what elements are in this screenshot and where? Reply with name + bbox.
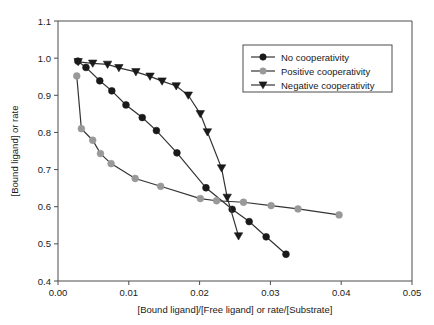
data-point-marker (108, 160, 115, 167)
data-point-marker (139, 114, 146, 121)
x-tick-label: 0.00 (49, 287, 68, 298)
data-point-marker (260, 68, 266, 74)
data-point-marker (153, 127, 160, 134)
data-point-marker (295, 206, 302, 213)
series-line (77, 76, 339, 215)
legend-entry-label: Negative cooperativity (281, 80, 375, 91)
y-tick-label: 1.0 (38, 53, 51, 64)
y-tick-label: 0.6 (38, 201, 51, 212)
data-point-marker (240, 199, 247, 206)
series-line (78, 62, 238, 236)
data-point-marker (234, 233, 242, 240)
chart-figure: 0.000.010.020.030.040.050.40.50.60.70.80… (0, 0, 434, 325)
series-2 (73, 73, 342, 219)
data-point-marker (108, 87, 115, 94)
data-point-marker (83, 64, 90, 71)
y-tick-label: 0.8 (38, 127, 51, 138)
scatchard-plot: 0.000.010.020.030.040.050.40.50.60.70.80… (0, 0, 434, 325)
y-tick-label: 0.9 (38, 90, 51, 101)
series-3 (74, 59, 243, 240)
legend: No cooperativityPositive cooperativityNe… (243, 45, 392, 92)
data-point-marker (132, 175, 139, 182)
data-point-marker (336, 211, 343, 218)
y-axis-title: [Bound ligand] or rate (9, 106, 20, 197)
data-point-marker (283, 251, 290, 258)
data-point-marker (196, 111, 204, 118)
data-point-marker (73, 73, 80, 80)
data-point-marker (203, 184, 210, 191)
data-point-marker (174, 149, 181, 156)
x-tick-label: 0.01 (120, 287, 139, 298)
data-point-marker (217, 165, 225, 172)
data-point-marker (197, 195, 204, 202)
data-point-marker (89, 137, 96, 144)
data-point-marker (268, 202, 275, 209)
data-point-marker (223, 194, 231, 201)
data-point-marker (184, 92, 192, 99)
y-tick-label: 1.1 (38, 16, 51, 27)
data-point-marker (213, 197, 220, 204)
data-point-marker (78, 125, 85, 132)
x-tick-label: 0.02 (190, 287, 209, 298)
x-tick-label: 0.04 (332, 287, 351, 298)
data-point-marker (263, 233, 270, 240)
data-point-marker (146, 73, 154, 80)
x-axis-title: [Bound ligand]/[Free ligand] or rate/[Su… (138, 304, 333, 315)
data-point-marker (97, 150, 104, 157)
data-point-marker (260, 54, 266, 60)
data-point-marker (158, 78, 166, 85)
y-tick-label: 0.4 (38, 276, 51, 287)
data-point-marker (123, 102, 130, 109)
legend-entry-label: No cooperativity (281, 52, 349, 63)
data-point-marker (246, 218, 253, 225)
x-tick-label: 0.05 (403, 287, 422, 298)
legend-entry-label: Positive cooperativity (281, 66, 370, 77)
data-point-marker (157, 183, 164, 190)
y-tick-label: 0.7 (38, 164, 51, 175)
data-point-marker (96, 77, 103, 84)
y-tick-label: 0.5 (38, 238, 51, 249)
data-point-marker (203, 129, 211, 136)
x-tick-label: 0.03 (261, 287, 280, 298)
